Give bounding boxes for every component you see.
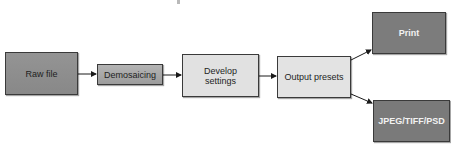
stray-mark bbox=[177, 0, 180, 4]
workflow-diagram: Raw file Demosaicing Develop settings Ou… bbox=[0, 0, 451, 146]
node-develop-settings: Develop settings bbox=[182, 54, 259, 97]
node-label: Raw file bbox=[25, 69, 57, 79]
node-jpeg-tiff-psd: JPEG/TIFF/PSD bbox=[373, 100, 450, 142]
node-print: Print bbox=[372, 12, 446, 54]
arrow-output-to-jpeg bbox=[351, 94, 372, 103]
arrow-output-to-print bbox=[351, 50, 371, 60]
node-label: Print bbox=[399, 28, 420, 38]
node-label: Develop settings bbox=[204, 66, 237, 86]
node-demosaicing: Demosaicing bbox=[97, 64, 163, 85]
node-raw-file: Raw file bbox=[5, 52, 78, 95]
node-label: Demosaicing bbox=[104, 70, 156, 80]
node-label: JPEG/TIFF/PSD bbox=[378, 116, 445, 126]
node-label: Output presets bbox=[284, 72, 343, 82]
node-output-presets: Output presets bbox=[277, 56, 351, 98]
